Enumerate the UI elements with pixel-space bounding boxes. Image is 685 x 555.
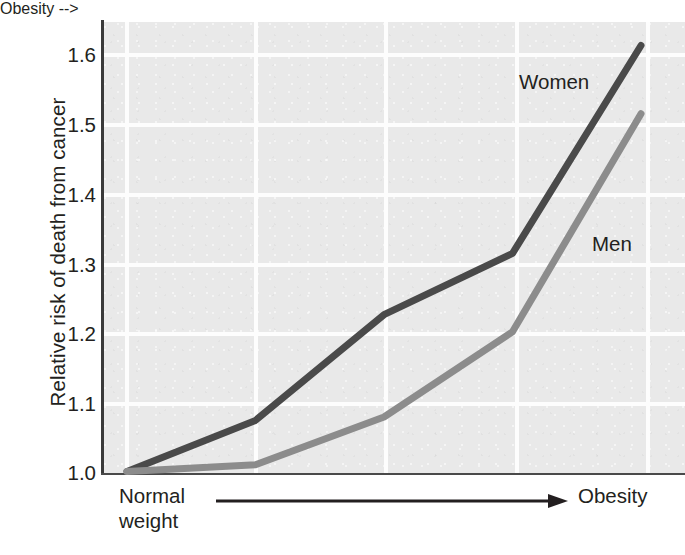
y-axis-line xyxy=(101,20,104,475)
series-label-men: Men xyxy=(592,234,632,255)
x-axis-annotation: Normal weight Obesity xyxy=(0,482,685,544)
x-axis-arrow-icon xyxy=(216,494,568,508)
gridline-horizontal-1-6 xyxy=(103,53,685,57)
gridline-horizontal-1-5 xyxy=(103,123,685,127)
gridline-horizontal-1-2 xyxy=(103,332,685,336)
x-axis-start-label-line1: Normal xyxy=(119,484,185,507)
x-axis-line xyxy=(101,473,685,475)
chart-figure: Relative risk of death from cancer 1.6 1… xyxy=(0,0,685,555)
gridline-horizontal-1-3 xyxy=(103,263,685,267)
y-tick-label-1-0: 1.0 xyxy=(0,463,96,484)
gridline-vertical-0 xyxy=(125,22,129,473)
gridline-vertical-1 xyxy=(254,22,258,473)
y-axis-tick-labels: 1.6 1.5 1.4 1.3 1.2 1.1 1.0 xyxy=(0,0,96,500)
y-tick-label-1-1: 1.1 xyxy=(0,394,96,415)
y-tick-label-1-6: 1.6 xyxy=(0,45,96,66)
gridline-horizontal-1-4 xyxy=(103,193,685,197)
y-tick-label-1-4: 1.4 xyxy=(0,185,96,206)
series-label-women: Women xyxy=(519,72,589,93)
y-tick-label-1-3: 1.3 xyxy=(0,255,96,276)
gridline-vertical-4 xyxy=(646,22,650,473)
y-tick-label-1-5: 1.5 xyxy=(0,115,96,136)
gridline-horizontal-1-1 xyxy=(103,402,685,406)
x-axis-start-label-line2: weight xyxy=(119,509,178,532)
x-axis-end-label: Obesity xyxy=(578,483,648,508)
gridline-vertical-2 xyxy=(384,22,388,473)
y-tick-label-1-2: 1.2 xyxy=(0,324,96,345)
x-axis-start-label: Normal weight xyxy=(119,483,185,533)
